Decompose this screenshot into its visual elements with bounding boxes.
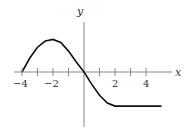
x-tick-label: 2	[112, 78, 118, 89]
x-axis-label: x	[175, 66, 182, 79]
y-axis-label: y	[76, 5, 84, 18]
plot-area: −4−224 x y	[0, 0, 190, 133]
x-tick-label: 4	[143, 78, 149, 89]
chart: −4−224 x y	[0, 0, 190, 133]
x-ticks: −4−224	[13, 68, 149, 89]
function-curve	[22, 39, 162, 106]
x-tick-label: −4	[13, 78, 28, 89]
x-tick-label: −2	[44, 78, 59, 89]
